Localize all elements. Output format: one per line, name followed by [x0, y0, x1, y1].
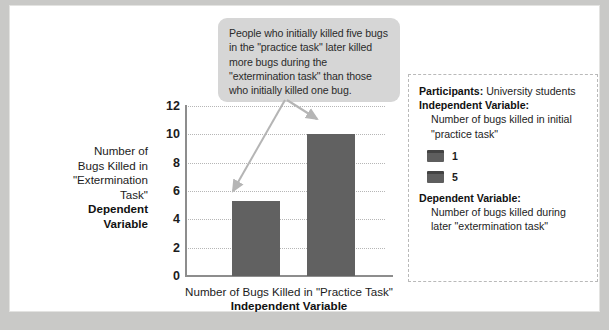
page-background: People who initially killed five bugs in…: [0, 0, 609, 330]
y-axis-title-main: Number of Bugs Killed in "Extermination …: [40, 144, 148, 202]
participants-value: University students: [486, 85, 576, 97]
independent-variable-description: Number of bugs killed in initial "practi…: [419, 112, 589, 140]
y-axis-tick-label: 0: [154, 269, 180, 283]
bar-chart: 121086420 Number of Bugs Killed in "Exte…: [10, 6, 430, 311]
dependent-variable-label: Dependent Variable:: [419, 191, 589, 205]
legend-label: 1: [452, 150, 458, 162]
legend-swatch-icon: [427, 171, 444, 183]
legend-item: 5: [419, 171, 589, 183]
y-axis-title: Number of Bugs Killed in "Extermination …: [40, 144, 148, 232]
participants-row: Participants: University students: [419, 84, 589, 98]
x-axis-title: Number of Bugs Killed in "Practice Task"…: [158, 285, 420, 314]
bar-1: [232, 201, 280, 276]
cut-off-source-caption: [10, 318, 310, 330]
y-axis-tick-label: 8: [154, 156, 180, 170]
figure-panel: People who initially killed five bugs in…: [10, 6, 599, 311]
legend-item: 1: [419, 150, 589, 162]
participants-label: Participants:: [419, 85, 483, 97]
legend-swatch-icon: [427, 150, 444, 162]
chart-legend: 15: [419, 150, 589, 183]
dependent-variable-description: Number of bugs killed during later "exte…: [419, 205, 589, 233]
y-axis-tick-label: 2: [154, 241, 180, 255]
x-axis-title-sub: Independent Variable: [158, 299, 420, 313]
bars-group: [185, 106, 385, 276]
y-axis-title-sub: Dependent Variable: [40, 202, 148, 231]
bar-5: [307, 134, 355, 276]
legend-label: 5: [452, 171, 458, 183]
y-axis-tick-label: 10: [154, 127, 180, 141]
y-axis-tick-labels: 121086420: [150, 6, 180, 311]
x-axis-title-main: Number of Bugs Killed in "Practice Task": [158, 285, 420, 299]
y-axis-tick-label: 12: [154, 99, 180, 113]
independent-variable-label: Independent Variable:: [419, 98, 589, 112]
y-axis-tick-label: 4: [154, 212, 180, 226]
study-info-panel: Participants: University students Indepe…: [408, 74, 598, 282]
y-axis-tick-label: 6: [154, 184, 180, 198]
